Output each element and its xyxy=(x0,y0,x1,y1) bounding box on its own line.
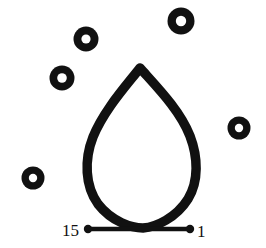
ring-left-middle xyxy=(50,66,75,91)
ring-top-right xyxy=(168,8,195,35)
ring-left-middle-hole xyxy=(57,73,67,83)
baseline-endpoint-dot-right xyxy=(186,225,194,233)
ring-right-middle-hole xyxy=(235,124,243,132)
ring-bottom-left xyxy=(22,167,45,190)
figure-canvas: 15 1 xyxy=(0,0,266,248)
ring-top-right-hole xyxy=(176,16,186,26)
vertex-label-15: 15 xyxy=(62,221,79,240)
vertex-label-1: 1 xyxy=(197,222,206,241)
ring-top-left-hole xyxy=(81,34,90,43)
figure-background xyxy=(0,0,266,248)
ring-top-left xyxy=(74,27,99,52)
baseline-endpoint-dot-left xyxy=(84,225,92,233)
petal-figure: 15 1 xyxy=(0,0,266,248)
ring-bottom-left-hole xyxy=(29,174,37,182)
ring-right-middle xyxy=(228,117,251,140)
